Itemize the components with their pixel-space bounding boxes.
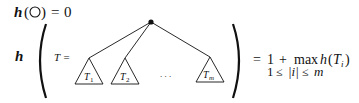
root-node-icon: [148, 19, 153, 24]
svg-text:): ): [345, 52, 350, 68]
subtree-t1: T 1: [75, 58, 103, 84]
svg-text:2: 2: [126, 76, 130, 84]
svg-text:|i|: |i|: [288, 64, 299, 79]
svg-text:i: i: [341, 59, 344, 69]
tree-label: T =: [54, 51, 70, 63]
empty-tree-icon: [30, 7, 40, 17]
svg-text:m: m: [209, 74, 214, 82]
right-big-paren-icon: [233, 24, 239, 98]
base-close-paren: ): [41, 4, 46, 21]
svg-text:1: 1: [90, 76, 94, 84]
ellipsis: . . .: [160, 69, 171, 79]
svg-text:≤: ≤: [276, 65, 283, 79]
recursive-func-h: h: [15, 48, 23, 64]
tree-height-diagram: h ( ) = 0 h T = T 1 T 2 . . . T m = 1 +: [0, 0, 359, 103]
base-func-h: h: [14, 4, 22, 20]
subtree-t2: T 2: [111, 58, 139, 84]
subtree-tm: T m: [196, 57, 224, 82]
base-equals: =: [51, 4, 59, 20]
svg-text:=: =: [253, 52, 261, 67]
svg-text:1: 1: [267, 64, 274, 79]
svg-text:m: m: [314, 64, 323, 79]
base-value: 0: [64, 4, 72, 20]
svg-text:≤: ≤: [302, 65, 309, 79]
base-open-paren: (: [24, 4, 29, 21]
tree-edges: [89, 22, 210, 58]
left-big-paren-icon: [40, 24, 46, 98]
base-case-equation: h ( ) = 0: [14, 4, 72, 21]
rhs-line-2: 1 ≤ |i| ≤ m: [267, 64, 323, 79]
